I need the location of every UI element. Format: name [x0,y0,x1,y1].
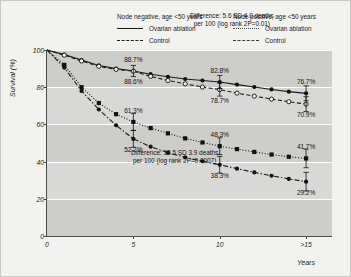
x-tick-label: 5 [131,241,135,248]
annotation-bottom-line1: Difference: 12.5 SD 3.9 deaths [131,149,218,157]
data-point-label: 61.3% [124,107,142,114]
annotation-bottom-line2: per 100 (log rank 2P=0.0007) [131,157,218,165]
data-point-marker [62,53,66,57]
x-tick-label: >15 [300,241,312,248]
data-point-marker [149,126,153,130]
solid-line-icon [117,25,143,32]
data-point-label: 38.3% [211,172,229,179]
data-point-marker [183,82,187,86]
annotation-node-positive-difference: Difference: 12.5 SD 3.9 deaths per 100 (… [131,149,218,165]
annotation-top-line2: per 100 (log rank 2P=0.01) [190,20,274,28]
data-point-marker [114,112,118,116]
data-point-label: 76.7% [297,78,315,85]
legend-label-node-negative-ablation: Ovarian ablation [149,26,196,32]
data-point-marker [114,123,118,127]
data-point-marker [287,177,291,181]
data-point-marker [235,167,239,171]
y-tick-label: 20 [36,195,44,202]
data-point-marker [183,136,187,140]
data-point-marker [287,100,291,104]
data-point-label: 88.7% [124,56,142,63]
data-point-marker [200,140,204,144]
data-point-label: 88.6% [124,78,142,85]
x-tick-mark [306,236,307,239]
y-tick-label: 60 [36,121,44,128]
data-point-marker [287,155,291,159]
x-tick-mark [220,236,221,239]
data-point-marker [97,64,101,68]
dashed-line-icon [117,37,143,44]
series-line [47,50,306,93]
data-point-marker [287,90,291,94]
y-tick-label: 80 [36,84,44,91]
data-point-label: 41.7% [297,143,315,150]
y-tick-mark [44,236,47,237]
data-point-label: 82.8% [211,67,229,74]
data-point-marker [252,150,256,154]
chart-figure: Node negative, age <50 years Ovarian abl… [0,0,351,277]
y-axis-title: Survival (%) [9,59,16,97]
x-tick-label: 0 [45,241,49,248]
data-point-marker [235,82,239,86]
series-lines [47,50,332,236]
data-point-marker [114,67,118,71]
data-point-label: 29.2% [297,189,315,196]
data-point-label: 48.3% [211,131,229,138]
data-point-marker [235,147,239,151]
data-point-marker [166,131,170,135]
data-point-marker [252,94,256,98]
data-point-marker [269,174,273,178]
y-tick-label: 100 [33,47,44,54]
data-point-marker [62,66,66,70]
legend-label-node-positive-control: Control [265,38,286,44]
data-point-marker [252,170,256,174]
data-point-marker [79,85,83,89]
data-point-marker [166,78,170,82]
data-point-marker [200,85,204,89]
data-point-marker [183,77,187,81]
data-point-marker [79,89,83,93]
data-point-marker [269,152,273,156]
data-point-marker [79,59,83,63]
y-tick-label: 40 [36,158,44,165]
data-point-label: 70.9% [297,111,315,118]
legend-entry-node-positive-control: Control [233,37,316,44]
data-point-marker [235,91,239,95]
data-point-marker [97,107,101,111]
dash-dot-line-icon [233,37,259,44]
x-tick-label: 10 [216,241,224,248]
data-point-marker [269,87,273,91]
data-point-label: 78.7% [211,97,229,104]
plot-area: 020406080100 0510>15 88.7%88.6%82.8%78.7… [46,50,332,237]
legend-entry-node-negative-control: Control [117,37,202,44]
annotation-node-negative-difference: Difference: 5.6 SD 4.0 deaths per 100 (l… [190,12,274,28]
data-point-marker [200,78,204,82]
x-tick-mark [133,236,134,239]
data-point-marker [252,85,256,89]
legend-label-node-negative-control: Control [149,38,170,44]
data-point-marker [149,74,153,78]
annotation-top-line1: Difference: 5.6 SD 4.0 deaths [190,12,274,20]
series-line [47,50,306,158]
data-point-marker [269,97,273,101]
x-axis-title: Years [297,259,315,266]
data-point-marker [97,101,101,105]
